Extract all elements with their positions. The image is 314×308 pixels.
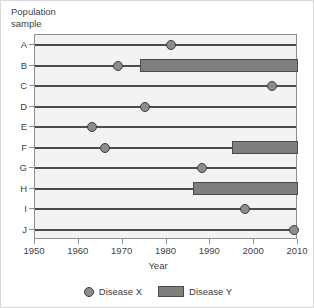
- y-axis-tick: [29, 85, 34, 86]
- y-axis-tick: [29, 126, 34, 127]
- plot-area: [34, 34, 297, 239]
- y-axis-tick-label: A: [1, 39, 27, 50]
- y-axis-tick: [29, 167, 34, 168]
- y-axis-tick: [29, 106, 34, 107]
- legend-label-disease-y: Disease Y: [189, 286, 232, 297]
- x-axis-tick-label: 2000: [243, 245, 264, 256]
- row-baseline: [35, 85, 296, 87]
- y-axis-tick-label: B: [1, 59, 27, 70]
- disease-x-marker: [197, 163, 207, 173]
- table-row: [35, 220, 296, 241]
- table-row: [35, 158, 296, 179]
- x-axis-tick: [166, 239, 167, 244]
- disease-x-marker: [289, 225, 299, 235]
- x-axis-tick: [34, 239, 35, 244]
- bar-swatch-icon: [158, 286, 184, 297]
- row-baseline: [35, 229, 296, 231]
- x-axis-tick: [297, 239, 298, 244]
- disease-x-marker: [113, 61, 123, 71]
- table-row: [35, 35, 296, 56]
- disease-x-marker: [140, 102, 150, 112]
- y-axis-tick-label: C: [1, 80, 27, 91]
- table-row: [35, 117, 296, 138]
- table-row: [35, 199, 296, 220]
- legend-item-disease-y: Disease Y: [158, 286, 232, 297]
- x-axis-tick-label: 1980: [155, 245, 176, 256]
- y-axis-tick: [29, 229, 34, 230]
- row-baseline: [35, 167, 296, 169]
- y-axis-tick: [29, 44, 34, 45]
- disease-x-marker: [166, 40, 176, 50]
- row-baseline: [35, 208, 296, 210]
- legend-label-disease-x: Disease X: [99, 286, 142, 297]
- y-axis-title: Population sample: [11, 6, 56, 29]
- row-baseline: [35, 126, 296, 128]
- x-axis-tick: [122, 239, 123, 244]
- disease-x-marker: [100, 143, 110, 153]
- x-axis-tick-label: 1950: [23, 245, 44, 256]
- disease-x-marker: [87, 122, 97, 132]
- table-row: [35, 179, 296, 200]
- disease-y-bar: [232, 141, 298, 154]
- table-row: [35, 76, 296, 97]
- y-axis-tick-label: J: [1, 223, 27, 234]
- y-axis-tick-label: D: [1, 100, 27, 111]
- y-axis-tick: [29, 147, 34, 148]
- y-axis-tick-label: I: [1, 203, 27, 214]
- x-axis-tick-label: 1990: [199, 245, 220, 256]
- disease-y-bar: [140, 59, 298, 72]
- y-axis-tick-label: E: [1, 121, 27, 132]
- disease-x-marker: [267, 81, 277, 91]
- x-axis-tick-label: 1970: [111, 245, 132, 256]
- x-axis-tick-label: 1960: [67, 245, 88, 256]
- table-row: [35, 97, 296, 118]
- x-axis-tick: [209, 239, 210, 244]
- row-baseline: [35, 106, 296, 108]
- chart-legend: Disease X Disease Y: [1, 286, 314, 297]
- x-axis-tick-label: 2010: [286, 245, 307, 256]
- y-axis-tick: [29, 65, 34, 66]
- table-row: [35, 56, 296, 77]
- x-axis-title: Year: [1, 260, 314, 271]
- y-axis-tick: [29, 208, 34, 209]
- y-axis-tick-label: F: [1, 141, 27, 152]
- disease-x-marker: [240, 204, 250, 214]
- legend-item-disease-x: Disease X: [84, 286, 142, 297]
- x-axis-tick: [78, 239, 79, 244]
- x-axis-tick: [253, 239, 254, 244]
- y-axis-tick-label: G: [1, 162, 27, 173]
- disease-y-bar: [193, 182, 298, 195]
- chart-figure: Population sample ABCDEFGHIJ 19501960197…: [0, 0, 314, 308]
- table-row: [35, 138, 296, 159]
- y-axis-tick-label: H: [1, 182, 27, 193]
- y-axis-tick: [29, 188, 34, 189]
- circle-marker-icon: [84, 287, 94, 297]
